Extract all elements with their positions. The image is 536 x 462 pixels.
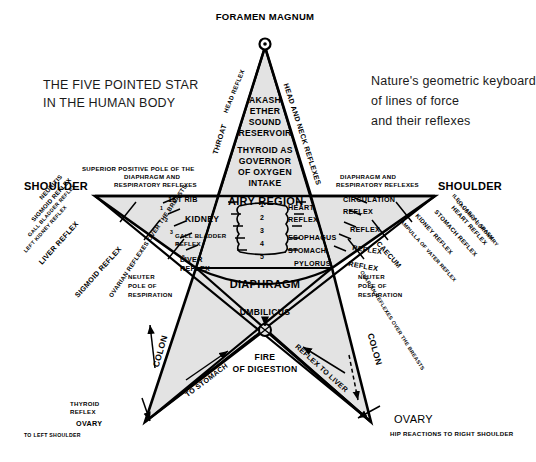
label-thyroid-reflex: THYROID REFLEX: [70, 400, 100, 415]
label-umbilicus: UMBILICUS: [240, 307, 290, 317]
label-kidney: KIDNEY: [185, 214, 219, 224]
label-gall-bladder-reflex-1: GALL BLADDER: [175, 232, 227, 239]
label-circulation-reflex-2: REFLEX: [343, 207, 373, 216]
label-hip-reactions: HIP REACTIONS TO RIGHT SHOULDER: [390, 430, 514, 437]
svg-text:OVARIAN REFLEXES OVER THE BREA: OVARIAN REFLEXES OVER THE BREASTS: [359, 269, 426, 371]
label-fire-of-digestion-2: OF DIGESTION: [232, 364, 297, 374]
svg-text:RESPIRATORY REFLEXES: RESPIRATORY REFLEXES: [336, 181, 419, 188]
svg-text:SUPERIOR POSITIVE POLE OF THE: SUPERIOR POSITIVE POLE OF THE: [82, 165, 195, 172]
svg-text:DIAPHRAGM AND: DIAPHRAGM AND: [124, 173, 180, 180]
label-stomach: STOMACH: [288, 246, 326, 255]
label-superior-pole-left: SUPERIOR POSITIVE POLE OF THE DIAPHRAGM …: [82, 165, 197, 188]
svg-text:AKASH: AKASH: [249, 95, 281, 105]
label-head-reflex: HEAD REFLEX: [222, 68, 246, 114]
svg-text:GOVERNOR: GOVERNOR: [239, 156, 292, 166]
svg-text:THYROID AS: THYROID AS: [237, 145, 293, 155]
svg-text:3: 3: [260, 227, 264, 234]
label-shoulder-right: SHOULDER: [438, 180, 502, 192]
svg-text:1: 1: [260, 201, 264, 208]
svg-text:3: 3: [170, 229, 173, 235]
label-superior-pole-right: DIAPHRAGM AND RESPIRATORY REFLEXES: [336, 173, 419, 188]
label-circulation-reflex-1: CIRCULATION: [343, 195, 395, 204]
svg-text:THROAT: THROAT: [211, 123, 229, 156]
svg-text:RESERVOIR: RESERVOIR: [238, 128, 292, 138]
label-heart-reflex-1: HEART: [288, 203, 315, 212]
svg-text:RESPIRATION: RESPIRATION: [128, 291, 173, 298]
label-diaphragm: DIAPHRAGM: [230, 278, 301, 290]
label-right-reflex-1: REFLEX: [350, 225, 380, 234]
label-fire-of-digestion-1: FIRE: [255, 352, 276, 362]
svg-text:POLE OF: POLE OF: [128, 282, 157, 289]
svg-text:ETHER: ETHER: [250, 106, 281, 116]
label-neuter-pole-left: NEUTER POLE OF RESPIRATION: [128, 273, 173, 298]
label-esophagus: ESOPHAGUS: [288, 233, 337, 242]
label-foramen-magnum: FORAMEN MAGNUM: [216, 11, 315, 22]
svg-text:THYROID: THYROID: [70, 400, 100, 407]
label-ovary-right: OVARY: [394, 413, 433, 425]
label-liver-reflex-2: REFLEX: [180, 264, 210, 273]
svg-text:HEAD REFLEX: HEAD REFLEX: [222, 68, 246, 114]
svg-text:5: 5: [260, 253, 264, 260]
svg-text:DIAPHRAGM AND: DIAPHRAGM AND: [340, 173, 396, 180]
svg-text:SOUND: SOUND: [249, 117, 282, 127]
label-pylorus: PYLORUS: [294, 259, 331, 268]
label-to-left-shoulder: TO LEFT SHOULDER: [24, 432, 81, 438]
svg-text:1: 1: [160, 205, 163, 211]
svg-text:INTAKE: INTAKE: [248, 178, 281, 188]
label-colon-right: COLON: [366, 332, 385, 366]
svg-text:2: 2: [260, 214, 264, 221]
label-ovary-left: OVARY: [76, 419, 102, 428]
svg-text:REFLEX: REFLEX: [70, 408, 96, 415]
svg-text:NEUTER: NEUTER: [128, 273, 155, 280]
svg-text:5: 5: [182, 254, 185, 260]
svg-text:4: 4: [260, 240, 264, 247]
label-throat: THROAT: [211, 123, 229, 156]
label-heart-reflex-2: REFLEX: [288, 215, 318, 224]
svg-text:OF OXYGEN: OF OXYGEN: [238, 167, 292, 177]
svg-text:4: 4: [176, 241, 179, 247]
